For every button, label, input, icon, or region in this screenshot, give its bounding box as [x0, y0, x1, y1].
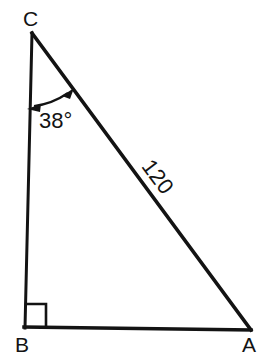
angle-measure-label: 38° [39, 110, 72, 132]
angle-arc-path [34, 93, 68, 106]
vertex-label-b: B [15, 334, 29, 355]
side-cb-line [25, 33, 32, 328]
side-ca-hypotenuse-line [32, 33, 251, 330]
geometry-figure: C B A 38° 120 [0, 0, 276, 363]
vertex-label-a: A [242, 334, 256, 355]
triangle-drawing [0, 0, 276, 363]
vertex-label-c: C [23, 8, 38, 29]
angle-arrow-head-right-icon [62, 88, 74, 99]
right-angle-square-icon [26, 304, 46, 325]
side-ba-line [24, 327, 251, 330]
